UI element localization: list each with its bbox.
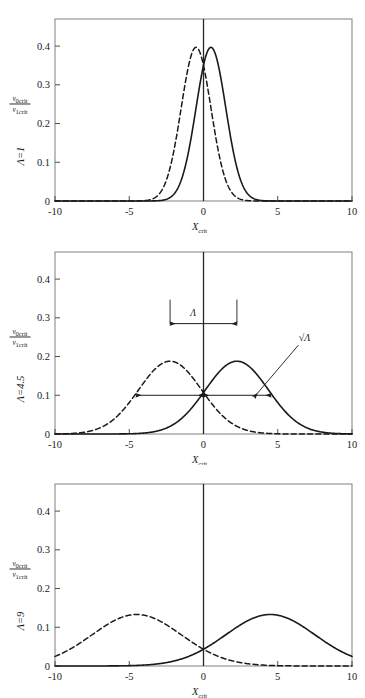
y-tick-label: 0.3 xyxy=(37,545,50,556)
figure-container: -10-5051000.10.20.30.4XcritΛ=1v0critv1cr… xyxy=(0,0,365,698)
pointer-line xyxy=(254,345,298,397)
y-tick-label: 0.2 xyxy=(37,583,50,594)
x-tick-label: -5 xyxy=(125,439,134,450)
panel-lambda-4point5: -10-5051000.10.20.30.4XcritΛ=4.5v0critv1… xyxy=(0,233,365,466)
panel-lambda-9: -10-5051000.10.20.30.4XcritΛ=9v0critv1cr… xyxy=(0,465,365,698)
fraction-denominator: v1crit xyxy=(12,106,27,115)
x-tick-label: 10 xyxy=(347,671,357,682)
y-tick-label: 0.4 xyxy=(37,41,51,52)
y-axis-fraction: v0critv1crit xyxy=(10,561,31,581)
y-tick-label: 0.4 xyxy=(37,273,51,284)
fraction-numerator: v0crit xyxy=(12,561,27,570)
lambda-value-label: Λ=9 xyxy=(15,611,26,631)
y-tick-label: 0.3 xyxy=(37,79,50,90)
y-tick-label: 0 xyxy=(45,428,50,439)
x-tick-label: 5 xyxy=(275,206,280,217)
sqrt-lambda-annotation-label: √Λ xyxy=(299,332,311,343)
x-tick-label: 5 xyxy=(275,439,280,450)
y-tick-label: 0.1 xyxy=(37,157,50,168)
plot-svg-panel-2: -10-5051000.10.20.30.4XcritΛ=9v0critv1cr… xyxy=(0,465,365,698)
x-tick-label: 0 xyxy=(201,206,206,217)
x-axis-label: Xcrit xyxy=(191,686,207,698)
fraction-denominator: v1crit xyxy=(12,571,27,580)
y-axis-label-group: Λ=9v0critv1crit xyxy=(10,561,31,632)
x-axis-label: Xcrit xyxy=(191,454,207,466)
lambda-value-label: Λ=4.5 xyxy=(15,375,26,403)
plot-svg-panel-0: -10-5051000.10.20.30.4XcritΛ=1v0critv1cr… xyxy=(0,0,365,233)
panel-lambda-1: -10-5051000.10.20.30.4XcritΛ=1v0critv1cr… xyxy=(0,0,365,233)
lambda-annotation-label: Λ xyxy=(189,306,196,317)
x-tick-label: -10 xyxy=(48,671,62,682)
x-tick-label: -5 xyxy=(125,671,134,682)
x-tick-label: 10 xyxy=(347,439,357,450)
plot-svg-panel-1: -10-5051000.10.20.30.4XcritΛ=4.5v0critv1… xyxy=(0,233,365,466)
y-axis-fraction: v0critv1crit xyxy=(10,328,31,348)
fraction-denominator: v1crit xyxy=(12,339,27,348)
x-tick-label: -10 xyxy=(48,206,62,217)
y-axis-fraction: v0critv1crit xyxy=(10,95,31,115)
x-tick-label: 0 xyxy=(201,671,206,682)
fraction-numerator: v0crit xyxy=(12,328,27,337)
y-tick-label: 0 xyxy=(45,661,50,672)
y-tick-label: 0.2 xyxy=(37,351,50,362)
x-tick-label: -5 xyxy=(125,206,134,217)
x-tick-label: 10 xyxy=(347,206,357,217)
x-axis-label: Xcrit xyxy=(191,221,207,233)
lambda-value-label: Λ=1 xyxy=(15,147,26,167)
y-tick-label: 0.3 xyxy=(37,312,50,323)
y-axis-label-group: Λ=4.5v0critv1crit xyxy=(10,328,31,403)
y-tick-label: 0.2 xyxy=(37,118,50,129)
x-tick-label: 5 xyxy=(275,671,280,682)
y-tick-label: 0.1 xyxy=(37,622,50,633)
y-tick-label: 0.4 xyxy=(37,506,51,517)
sqrt-lambda-label: √Λ xyxy=(254,332,310,397)
y-axis-label-group: Λ=1v0critv1crit xyxy=(10,95,31,166)
fraction-numerator: v0crit xyxy=(12,95,27,104)
y-tick-label: 0 xyxy=(45,196,50,207)
x-tick-label: -10 xyxy=(48,439,62,450)
x-tick-label: 0 xyxy=(201,439,206,450)
y-tick-label: 0.1 xyxy=(37,389,50,400)
